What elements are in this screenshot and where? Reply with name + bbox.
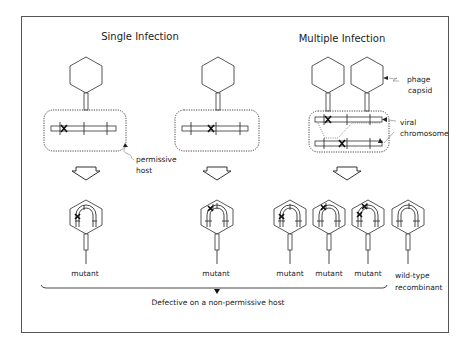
progeny-label-4: mutant	[315, 269, 342, 278]
viral-chromosome-multiple-bottom	[315, 138, 383, 149]
phage-capsid-icon	[312, 57, 344, 93]
multiple-infection-phage-1	[312, 57, 344, 111]
down-arrow-icon	[72, 167, 100, 180]
viral-chromosome-single-1	[51, 122, 116, 135]
phage-capsid-icon	[70, 57, 102, 93]
progeny-label-1: mutant	[71, 269, 98, 278]
phage-capsid-icon	[351, 57, 383, 93]
phage-recombination-diagram: Single Infection Multiple Infection perm…	[0, 0, 466, 350]
bracket-pointer-icon	[214, 289, 220, 294]
down-arrow-icon	[203, 167, 231, 180]
single-infection-phage-2	[202, 57, 234, 110]
multiple-infection-phage-2	[351, 57, 383, 111]
down-arrow-icon	[333, 167, 361, 180]
progeny-phage-2	[201, 200, 233, 264]
wild-type-label-line2: recombinant	[395, 283, 442, 292]
progeny-phage-wild-type	[392, 200, 424, 264]
phage-capsid-label-line2: capsid	[408, 86, 432, 95]
single-infection-phage-1	[70, 57, 102, 110]
permissive-host-label-line1: permissive	[136, 155, 177, 164]
viral-chromosome-single-2	[182, 122, 248, 135]
permissive-host-leader	[124, 145, 134, 160]
defective-bracket	[41, 285, 387, 288]
viral-chromosome-label-line1: viral	[400, 118, 416, 127]
multiple-infection-title: Multiple Infection	[299, 33, 386, 44]
progeny-phage-3	[274, 200, 306, 264]
progeny-label-2: mutant	[202, 269, 229, 278]
phage-capsid-leader	[389, 78, 399, 81]
progeny-phage-1	[70, 200, 102, 264]
phage-capsid-icon	[202, 57, 234, 93]
progeny-label-5: mutant	[354, 269, 381, 278]
progeny-phage-4	[313, 200, 345, 264]
progeny-phage-5	[352, 200, 384, 264]
progeny-label-3: mutant	[276, 269, 303, 278]
viral-chromosome-multiple-top	[315, 114, 387, 125]
single-infection-title: Single Infection	[101, 31, 179, 42]
wild-type-label-line1: wild-type	[395, 271, 430, 280]
crossover-path	[318, 123, 380, 138]
permissive-host-label-line2: host	[136, 166, 152, 175]
phage-capsid-label-line1: phage	[407, 75, 431, 84]
bracket-caption: Defective on a non-permissive host	[152, 298, 285, 307]
viral-chromosome-label-line2: chromosome	[400, 129, 449, 138]
